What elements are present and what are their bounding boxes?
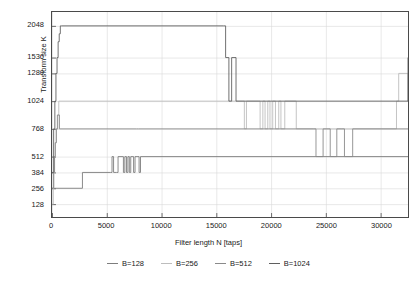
series-line-b-256 [52, 73, 408, 204]
legend-label: B=512 [230, 259, 252, 268]
x-tick-label: 0 [49, 222, 53, 230]
legend-label: B=256 [176, 259, 198, 268]
x-tick-label: 5000 [98, 222, 115, 230]
legend-label: B=128 [122, 259, 144, 268]
series-line-b-512 [52, 115, 408, 188]
y-tick-label: 512 [0, 153, 44, 161]
legend-item-b-1024[interactable]: B=1024 [269, 259, 310, 268]
y-tick-label: 256 [0, 185, 44, 193]
legend-swatch-icon [269, 263, 280, 264]
legend-item-b-128[interactable]: B=128 [107, 259, 144, 268]
y-tick-label: 384 [0, 169, 44, 177]
y-tick-label: 128 [0, 201, 44, 209]
legend-swatch-icon [107, 263, 118, 264]
series-line-b-1024 [52, 26, 408, 173]
x-tick-label: 10000 [151, 222, 172, 230]
chart-legend: B=128B=256B=512B=1024 [0, 259, 417, 268]
y-tick-label: 1536 [0, 53, 44, 61]
legend-item-b-256[interactable]: B=256 [161, 259, 198, 268]
series-line-b-128 [52, 157, 408, 189]
y-tick-label: 2048 [0, 21, 44, 29]
x-tick-label: 25000 [316, 222, 337, 230]
series-layer [52, 12, 408, 217]
plot-area [51, 11, 409, 218]
legend-label: B=1024 [284, 259, 310, 268]
legend-swatch-icon [161, 263, 172, 264]
y-tick-label: 1024 [0, 97, 44, 105]
x-tick-label: 30000 [371, 222, 392, 230]
legend-item-b-512[interactable]: B=512 [215, 259, 252, 268]
legend-swatch-icon [215, 263, 226, 264]
y-tick-label: 768 [0, 125, 44, 133]
y-tick-label: 1280 [0, 69, 44, 77]
x-axis-title: Filter length N [taps] [0, 238, 417, 247]
x-tick-label: 15000 [206, 222, 227, 230]
chart-figure: Transform size K 12825638451276810241280… [0, 0, 417, 282]
x-tick-label: 20000 [261, 222, 282, 230]
